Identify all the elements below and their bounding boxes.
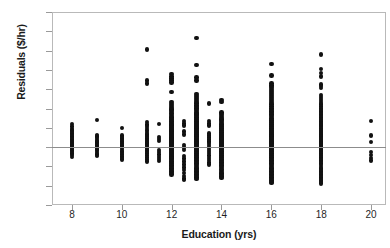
y-tick-mark xyxy=(46,31,52,32)
x-tick-mark xyxy=(271,205,272,210)
x-axis-title: Education (yrs) xyxy=(52,228,386,240)
plot-area xyxy=(52,12,386,205)
zero-reference-line xyxy=(52,147,386,148)
x-tick-label: 10 xyxy=(102,209,142,220)
x-tick-mark xyxy=(122,205,123,210)
x-tick-label: 20 xyxy=(351,209,390,220)
x-tick-mark xyxy=(221,205,222,210)
x-tick-mark xyxy=(172,205,173,210)
y-tick-mark xyxy=(46,51,52,52)
y-tick-mark xyxy=(46,12,52,13)
x-tick-label: 18 xyxy=(301,209,341,220)
y-tick-mark xyxy=(46,70,52,71)
x-tick-mark xyxy=(321,205,322,210)
x-tick-label: 8 xyxy=(52,209,92,220)
y-tick-mark xyxy=(46,89,52,90)
x-tick-label: 14 xyxy=(201,209,241,220)
y-tick-mark xyxy=(46,128,52,129)
x-tick-mark xyxy=(371,205,372,210)
y-tick-mark xyxy=(46,166,52,167)
x-tick-label: 16 xyxy=(251,209,291,220)
y-tick-mark xyxy=(46,205,52,206)
scatter-chart: Residuals ($/hr) Education (yrs) $70$60$… xyxy=(0,0,390,248)
y-axis-title: Residuals ($/hr) xyxy=(15,3,27,121)
y-tick-mark xyxy=(46,186,52,187)
x-tick-label: 12 xyxy=(152,209,192,220)
y-tick-mark xyxy=(46,109,52,110)
x-tick-mark xyxy=(72,205,73,210)
